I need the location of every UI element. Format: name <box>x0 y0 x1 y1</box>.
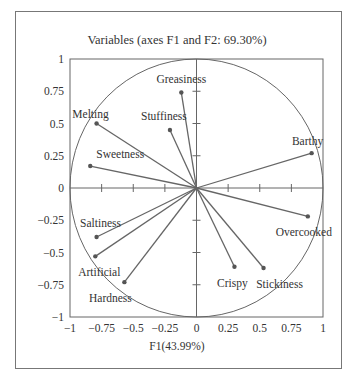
vector-label: Melting <box>72 108 109 121</box>
vector-endpoint <box>94 121 98 125</box>
vector-line <box>97 188 197 237</box>
vector-label: Stuffiness <box>141 110 187 122</box>
vector-endpoint <box>179 90 183 94</box>
x-tick-label: −1 <box>64 322 76 334</box>
vector-line <box>124 188 196 282</box>
y-tick-label: 0 <box>58 182 64 194</box>
vector-endpoint <box>306 214 310 218</box>
vector-endpoint <box>122 280 126 284</box>
vector-label: Saltiness <box>80 217 121 229</box>
x-tick-label: −0.25 <box>152 322 179 334</box>
vector-endpoint <box>168 128 172 132</box>
y-tick-label: −1 <box>52 311 64 323</box>
vector-label: Overcooked <box>276 226 332 238</box>
x-tick-label: 1 <box>320 322 326 334</box>
x-tick-label: −0.75 <box>88 322 115 334</box>
vector-line <box>197 188 308 216</box>
vector-label: Artificial <box>78 266 120 278</box>
y-tick-label: 1 <box>58 53 64 65</box>
vector-label: Stickiness <box>256 278 303 290</box>
x-tick-label: −0.5 <box>123 322 144 334</box>
x-tick-label: 0.25 <box>218 322 238 334</box>
vector-endpoint <box>261 266 265 270</box>
vector-label: Barthy <box>292 135 324 148</box>
y-tick-label: 0.75 <box>44 85 64 97</box>
vector-label: Hardness <box>89 292 132 304</box>
y-tick-label: 0.5 <box>50 118 65 130</box>
vector-endpoint <box>88 164 92 168</box>
x-tick-label: 0 <box>194 322 200 334</box>
vector-label: Sweetness <box>96 148 144 160</box>
vector-endpoint <box>232 264 236 268</box>
vector-endpoint <box>94 235 98 239</box>
vector-line <box>197 188 264 268</box>
vector-line <box>197 153 312 188</box>
y-tick-label: −0.5 <box>43 247 64 259</box>
y-tick-label: 0.25 <box>44 150 64 162</box>
vector-line <box>181 93 196 188</box>
vector-endpoint <box>93 254 97 258</box>
x-tick-label: 0.5 <box>253 322 268 334</box>
vector-label: Greasiness <box>156 73 206 85</box>
y-tick-label: −0.75 <box>37 279 64 291</box>
vector-endpoint <box>309 151 313 155</box>
vector-label: Crispy <box>217 277 248 290</box>
x-tick-label: 0.75 <box>281 322 301 334</box>
plot-area: −1−0.75−0.5−0.2500.250.50.75110.750.50.2… <box>0 0 354 382</box>
y-tick-label: −0.25 <box>37 214 64 226</box>
